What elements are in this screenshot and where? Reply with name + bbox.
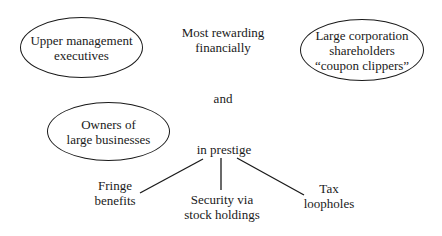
branch-line: Security via <box>184 192 259 207</box>
node-label-line: large businesses <box>67 132 151 147</box>
node-label-line: “coupon clippers” <box>315 58 409 73</box>
label-line: Most rewarding <box>182 25 265 40</box>
node-label-line: Upper management <box>30 33 132 48</box>
connector-tax-loopholes <box>237 158 304 195</box>
node-upper-management-executives: Upper management executives <box>20 17 143 78</box>
branch-line: stock holdings <box>184 207 259 222</box>
node-label-line: executives <box>54 48 109 63</box>
diagram-canvas: Upper management executives Large corpor… <box>0 0 442 236</box>
label-line: financially <box>182 40 265 55</box>
branch-line: Tax <box>304 181 355 196</box>
connector-fringe-benefits <box>140 159 203 193</box>
branch-security-via-stock-holdings: Security via stock holdings <box>184 192 259 222</box>
node-label-line: Large corporation <box>315 28 408 43</box>
node-owners-of-large-businesses: Owners of large businesses <box>47 102 170 161</box>
node-label-line: shareholders <box>329 43 395 58</box>
node-large-corporation-shareholders: Large corporation shareholders “coupon c… <box>300 19 424 81</box>
branch-fringe-benefits: Fringe benefits <box>94 178 135 208</box>
node-label-line: Owners of <box>81 117 136 132</box>
branch-line: loopholes <box>304 196 355 211</box>
label-most-rewarding-financially: Most rewarding financially <box>182 25 265 55</box>
branch-line: Fringe <box>94 178 135 193</box>
label-and: and <box>214 91 233 106</box>
branch-tax-loopholes: Tax loopholes <box>304 181 355 211</box>
branch-line: benefits <box>94 193 135 208</box>
label-in-prestige: in prestige <box>197 142 252 157</box>
